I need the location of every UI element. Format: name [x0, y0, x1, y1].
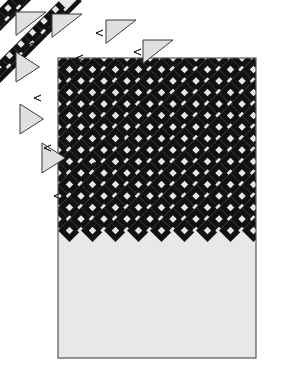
quilt-assembly-diagram: Diagonal-set quilt assembly diagram: [0, 0, 285, 374]
diagram-canvas: Diagonal-set quilt assembly diagram: [0, 0, 285, 374]
